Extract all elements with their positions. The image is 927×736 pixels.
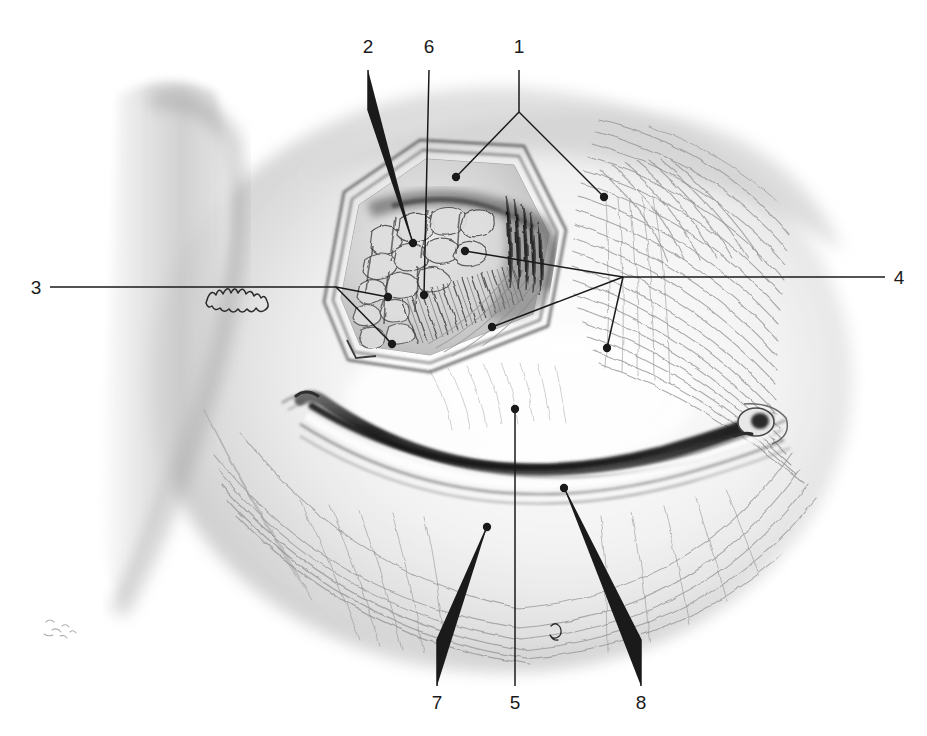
leader-4-dot-b — [489, 324, 496, 331]
leader-8-dot — [561, 485, 568, 492]
leader-1-dot-b — [601, 194, 608, 201]
label-5: 5 — [510, 693, 521, 712]
label-4: 4 — [894, 268, 905, 287]
label-6: 6 — [424, 37, 435, 56]
leader-2-dot — [410, 240, 417, 247]
leader-1-dot-a — [453, 174, 460, 181]
leader-4-dot-c — [604, 345, 611, 352]
lower-left-speckles — [44, 620, 76, 638]
leader-3-dot-b — [389, 341, 396, 348]
illustration-canvas: 1 2 3 4 5 6 7 8 — [0, 0, 927, 736]
anatomical-drawing — [0, 0, 927, 736]
label-3: 3 — [31, 278, 42, 297]
leader-6-dot — [421, 292, 428, 299]
leader-3-dot-a — [385, 294, 392, 301]
label-1: 1 — [514, 37, 525, 56]
leader-7-dot — [484, 524, 491, 531]
leader-4-dot-a — [462, 248, 469, 255]
label-8: 8 — [636, 693, 647, 712]
label-2: 2 — [363, 37, 374, 56]
leader-5-dot — [512, 406, 519, 413]
label-7: 7 — [432, 693, 443, 712]
